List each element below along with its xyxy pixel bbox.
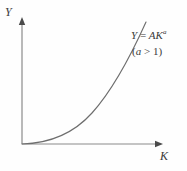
condition-close-paren: ): [158, 45, 162, 57]
equation-rhs-base: AK: [149, 29, 163, 41]
condition-line: (a > 1): [131, 44, 166, 60]
curve-annotation: Y = AKa (a > 1): [131, 28, 166, 60]
plot-area: [0, 0, 187, 171]
equation-operator: =: [137, 29, 149, 41]
y-axis-label: Y: [5, 6, 12, 18]
x-axis-arrowhead: [155, 141, 163, 147]
equation-exponent: a: [163, 28, 167, 36]
y-axis-arrowhead: [19, 17, 25, 25]
x-axis-label: K: [160, 150, 168, 162]
chart-figure: Y K Y = AKa (a > 1): [0, 0, 187, 171]
condition-relation: > 1: [141, 45, 158, 57]
equation-line: Y = AKa: [131, 28, 166, 44]
production-function-curve: [22, 22, 146, 144]
